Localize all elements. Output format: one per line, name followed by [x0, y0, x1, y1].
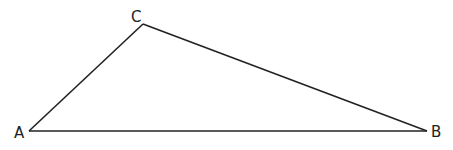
edge-bc [143, 24, 427, 131]
edge-ca [29, 24, 143, 131]
vertex-label-a: A [14, 124, 25, 142]
vertex-label-c: C [131, 8, 141, 26]
vertex-label-b: B [431, 123, 441, 141]
triangle-diagram: A B C [0, 0, 453, 150]
